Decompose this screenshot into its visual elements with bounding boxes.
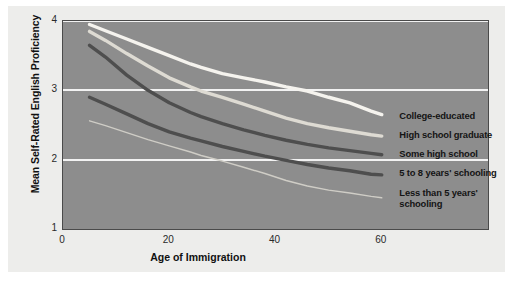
x-tick-label-20: 20 — [153, 234, 183, 245]
y-tick-label-1: 1 — [35, 222, 57, 233]
series-label-0: College-educated — [399, 110, 475, 121]
x-tick-label-60: 60 — [366, 234, 396, 245]
series-line-3 — [90, 97, 382, 175]
y-axis-title: Mean Self-Rated English Proficiency — [29, 14, 41, 194]
series-label-3: 5 to 8 years' schooling — [399, 167, 496, 178]
series-label-4: Less than 5 years' schooling — [399, 187, 477, 209]
chart-panel: Mean Self-Rated English Proficiency Age … — [8, 6, 505, 272]
series-line-4 — [90, 121, 382, 198]
y-tick-label-2: 2 — [35, 153, 57, 164]
series-label-2: Some high school — [399, 148, 477, 159]
figure: Mean Self-Rated English Proficiency Age … — [0, 0, 513, 289]
x-tick-label-0: 0 — [47, 234, 77, 245]
y-tick-label-3: 3 — [35, 83, 57, 94]
series-label-1: High school graduate — [399, 129, 492, 140]
series-line-1 — [90, 31, 382, 136]
y-tick-label-4: 4 — [35, 14, 57, 25]
x-tick-label-40: 40 — [260, 234, 290, 245]
x-axis-title: Age of Immigration — [8, 251, 388, 263]
